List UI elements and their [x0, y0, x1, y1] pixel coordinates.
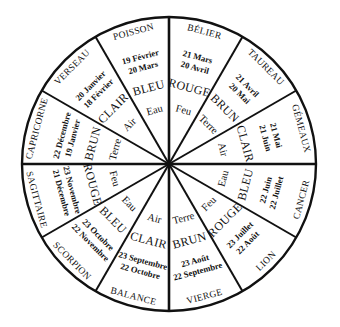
sign-element: Terre	[197, 113, 221, 137]
sign-element: Eau	[120, 194, 140, 214]
sign-color: ROUGE	[80, 162, 105, 207]
sign-element: Air	[146, 211, 163, 225]
sign-color: CLAIR	[129, 229, 169, 252]
sign-name: GÉMEAUX	[290, 103, 313, 154]
sign-element: Air	[121, 115, 139, 133]
sign-name: LION	[254, 249, 278, 273]
zodiac-wheel: BÉLIER21 Mars20 AvrilROUGEFeuTAUREAU21 A…	[0, 0, 340, 327]
sign-name: POISSON	[112, 21, 155, 41]
sign-element: Feu	[199, 194, 218, 213]
sign-color: BRUN	[81, 125, 103, 162]
sign-element: Feu	[174, 103, 193, 118]
sign-color: CLAIR	[234, 124, 257, 164]
sector-dividers	[22, 17, 316, 311]
sign-color: BLEU	[131, 77, 166, 99]
sign-name: BALANCE	[110, 285, 158, 307]
sign-element: Feu	[108, 169, 123, 188]
sign-element: Terre	[107, 137, 123, 161]
sign-element: Eau	[216, 168, 231, 187]
sign-element: Terre	[171, 210, 195, 226]
sign-color: BRUN	[171, 229, 208, 251]
sign-element: Air	[216, 141, 230, 158]
sign-name: SAGITTAIRE	[24, 170, 49, 229]
sign-color: ROUGE	[167, 75, 212, 100]
sign-color: BLEU	[234, 167, 256, 202]
sign-element: Eau	[145, 102, 164, 117]
sign-name: CAPRICORNE	[24, 97, 50, 161]
